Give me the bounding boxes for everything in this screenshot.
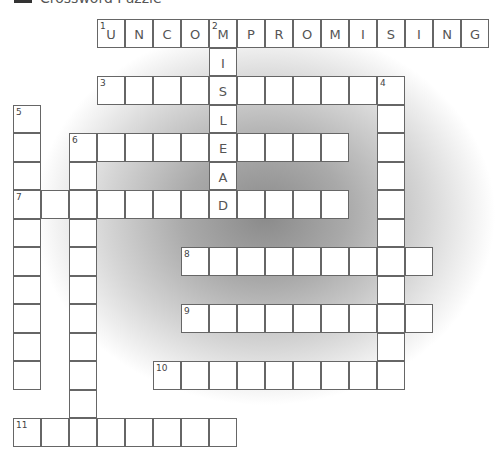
crossword-cell[interactable] [97, 190, 125, 219]
crossword-cell[interactable] [69, 162, 97, 191]
crossword-cell[interactable] [237, 76, 265, 105]
crossword-cell[interactable] [293, 361, 321, 390]
crossword-cell[interactable] [69, 304, 97, 333]
crossword-cell[interactable] [377, 162, 405, 191]
crossword-cell[interactable] [377, 247, 405, 276]
crossword-cell[interactable] [321, 76, 349, 105]
crossword-cell[interactable] [265, 247, 293, 276]
crossword-cell[interactable] [377, 361, 405, 390]
crossword-cell[interactable]: 1U [97, 19, 125, 48]
crossword-cell[interactable]: 9 [181, 304, 209, 333]
crossword-cell[interactable]: 11 [13, 418, 41, 447]
crossword-cell[interactable] [293, 304, 321, 333]
crossword-cell[interactable]: 3 [97, 76, 125, 105]
crossword-cell[interactable] [321, 247, 349, 276]
crossword-cell[interactable] [13, 162, 41, 191]
crossword-cell[interactable]: 6 [69, 133, 97, 162]
crossword-cell[interactable]: 10 [153, 361, 181, 390]
crossword-cell[interactable] [125, 76, 153, 105]
crossword-cell[interactable] [321, 133, 349, 162]
crossword-cell[interactable] [237, 133, 265, 162]
crossword-cell[interactable] [265, 190, 293, 219]
crossword-cell[interactable] [69, 247, 97, 276]
crossword-cell[interactable] [13, 361, 41, 390]
crossword-cell[interactable] [237, 361, 265, 390]
crossword-cell[interactable] [97, 133, 125, 162]
crossword-cell[interactable] [293, 76, 321, 105]
crossword-cell[interactable]: 8 [181, 247, 209, 276]
crossword-cell[interactable] [293, 133, 321, 162]
crossword-cell[interactable] [209, 361, 237, 390]
crossword-cell[interactable] [377, 105, 405, 134]
crossword-cell[interactable] [209, 304, 237, 333]
crossword-cell[interactable] [377, 304, 405, 333]
crossword-cell[interactable] [209, 418, 237, 447]
crossword-cell[interactable] [69, 333, 97, 362]
crossword-cell[interactable]: N [433, 19, 461, 48]
crossword-cell[interactable] [349, 304, 377, 333]
crossword-cell[interactable] [321, 190, 349, 219]
crossword-cell[interactable] [97, 418, 125, 447]
crossword-cell[interactable]: I [209, 48, 237, 77]
crossword-cell[interactable] [237, 304, 265, 333]
crossword-cell[interactable] [321, 361, 349, 390]
crossword-cell[interactable] [41, 418, 69, 447]
crossword-cell[interactable] [181, 76, 209, 105]
crossword-cell[interactable] [69, 190, 97, 219]
crossword-cell[interactable] [405, 247, 433, 276]
crossword-cell[interactable] [13, 219, 41, 248]
crossword-cell[interactable]: I [349, 19, 377, 48]
crossword-cell[interactable]: R [265, 19, 293, 48]
crossword-cell[interactable] [153, 76, 181, 105]
crossword-cell[interactable] [69, 361, 97, 390]
crossword-cell[interactable] [377, 333, 405, 362]
crossword-cell[interactable] [125, 133, 153, 162]
crossword-cell[interactable]: 4 [377, 76, 405, 105]
crossword-cell[interactable] [153, 133, 181, 162]
crossword-cell[interactable]: 2M [209, 19, 237, 48]
crossword-cell[interactable]: 7 [13, 190, 41, 219]
crossword-cell[interactable] [13, 276, 41, 305]
crossword-cell[interactable]: E [209, 133, 237, 162]
crossword-cell[interactable] [69, 418, 97, 447]
crossword-cell[interactable] [349, 247, 377, 276]
crossword-cell[interactable]: C [153, 19, 181, 48]
crossword-cell[interactable] [209, 247, 237, 276]
crossword-cell[interactable]: M [321, 19, 349, 48]
crossword-cell[interactable]: S [377, 19, 405, 48]
crossword-cell[interactable] [13, 333, 41, 362]
crossword-cell[interactable] [13, 304, 41, 333]
crossword-cell[interactable] [265, 304, 293, 333]
crossword-cell[interactable] [377, 276, 405, 305]
crossword-cell[interactable] [181, 133, 209, 162]
crossword-cell[interactable] [321, 304, 349, 333]
crossword-cell[interactable] [125, 418, 153, 447]
crossword-cell[interactable] [125, 190, 153, 219]
crossword-cell[interactable] [69, 390, 97, 419]
crossword-cell[interactable] [153, 190, 181, 219]
crossword-cell[interactable] [69, 276, 97, 305]
crossword-cell[interactable] [265, 76, 293, 105]
crossword-cell[interactable]: D [209, 190, 237, 219]
crossword-cell[interactable]: S [209, 76, 237, 105]
crossword-cell[interactable] [265, 133, 293, 162]
crossword-cell[interactable] [181, 418, 209, 447]
crossword-cell[interactable]: G [461, 19, 489, 48]
crossword-cell[interactable] [181, 361, 209, 390]
crossword-cell[interactable]: P [237, 19, 265, 48]
crossword-cell[interactable]: N [125, 19, 153, 48]
crossword-cell[interactable] [349, 76, 377, 105]
crossword-cell[interactable]: L [209, 105, 237, 134]
crossword-cell[interactable]: O [293, 19, 321, 48]
crossword-cell[interactable] [13, 247, 41, 276]
crossword-cell[interactable] [377, 190, 405, 219]
crossword-cell[interactable]: O [181, 19, 209, 48]
crossword-cell[interactable]: A [209, 162, 237, 191]
crossword-cell[interactable] [13, 133, 41, 162]
crossword-cell[interactable]: 5 [13, 105, 41, 134]
crossword-cell[interactable] [237, 190, 265, 219]
crossword-cell[interactable] [377, 219, 405, 248]
crossword-cell[interactable] [181, 190, 209, 219]
crossword-cell[interactable] [377, 133, 405, 162]
crossword-cell[interactable] [293, 247, 321, 276]
